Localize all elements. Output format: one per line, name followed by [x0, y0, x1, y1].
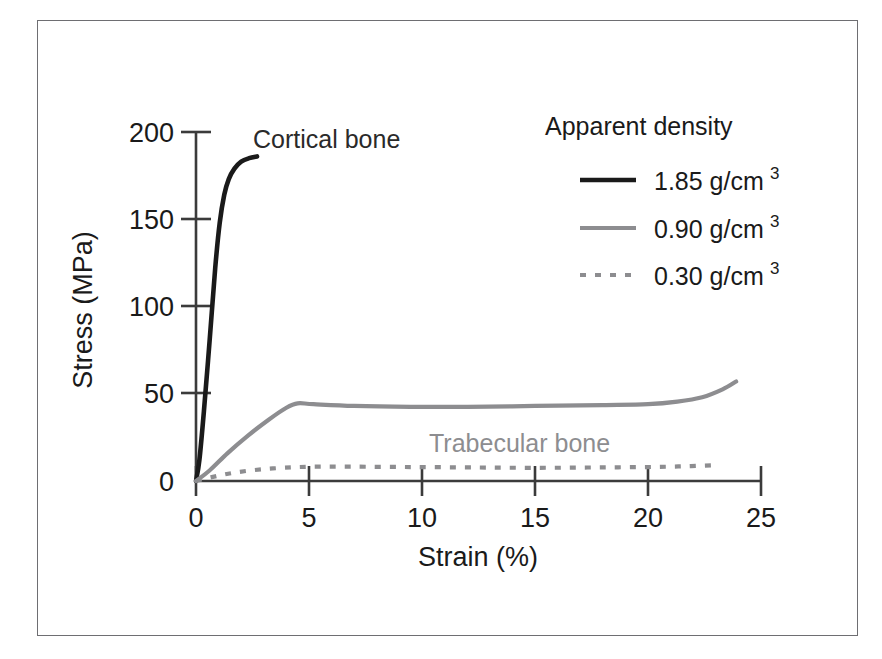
y-axis-title: Stress (MPa) — [68, 231, 98, 389]
legend-title: Apparent density — [545, 112, 733, 140]
legend-exponent-090: 3 — [770, 212, 779, 231]
legend-item-090: 0.90 g/cm 3 — [580, 212, 779, 243]
legend-item-030: 0.30 g/cm 3 — [580, 259, 779, 290]
x-tick-label-5: 5 — [301, 503, 316, 533]
legend-exponent-185: 3 — [770, 164, 779, 183]
y-tick-label-150: 150 — [129, 205, 174, 235]
legend-label-090: 0.90 g/cm — [654, 215, 764, 243]
y-axis — [181, 132, 211, 481]
y-tick-label-200: 200 — [129, 118, 174, 148]
legend-exponent-030: 3 — [770, 259, 779, 278]
legend-item-185: 1.85 g/cm 3 — [580, 164, 779, 195]
x-tick-label-0: 0 — [188, 503, 203, 533]
legend-label-185: 1.85 g/cm — [654, 167, 764, 195]
legend: Apparent density 1.85 g/cm 3 0.90 g/cm 3… — [545, 112, 779, 290]
x-tick-label-25: 25 — [746, 503, 776, 533]
annotation-trabecular-bone: Trabecular bone — [429, 429, 610, 457]
x-axis — [196, 466, 761, 496]
stress-strain-chart: 200 150 100 50 0 0 5 10 15 20 25 Strain … — [0, 0, 882, 659]
figure-root: 200 150 100 50 0 0 5 10 15 20 25 Strain … — [0, 0, 882, 659]
series-line-trabecular-030 — [196, 465, 711, 481]
legend-label-030: 0.30 g/cm — [654, 262, 764, 290]
x-tick-label-20: 20 — [633, 503, 663, 533]
x-tick-label-10: 10 — [407, 503, 437, 533]
y-tick-label-0: 0 — [159, 467, 174, 497]
x-tick-label-15: 15 — [520, 503, 550, 533]
y-tick-label-50: 50 — [144, 379, 174, 409]
y-tick-label-100: 100 — [129, 292, 174, 322]
annotation-cortical-bone: Cortical bone — [253, 125, 400, 153]
x-axis-title: Strain (%) — [418, 542, 538, 572]
series-line-cortical — [196, 156, 257, 481]
